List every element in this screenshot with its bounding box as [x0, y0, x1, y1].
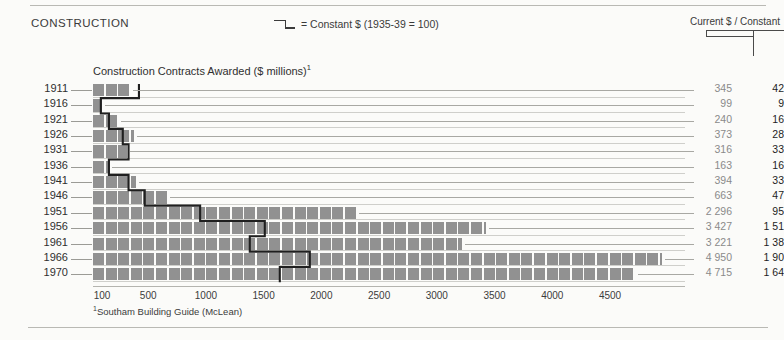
bar-segment: [244, 238, 255, 250]
bar-segment: [345, 253, 356, 265]
bar-segment: [408, 222, 419, 234]
bar-segment: [458, 238, 462, 250]
bar-segment: [106, 253, 117, 265]
bar-segment: [484, 253, 495, 265]
bar-segment: [232, 222, 243, 234]
bar-segment: [106, 130, 117, 142]
constant-dollar-value-1951: 95: [700, 205, 784, 217]
year-label-1931: 1931: [36, 143, 68, 155]
bar-segment: [307, 238, 318, 250]
bar-segment: [93, 115, 104, 127]
x-tick-4000: 4000: [541, 290, 563, 301]
year-leader: [71, 259, 92, 260]
bar-segment: [118, 222, 129, 234]
bar-chart-plot: [93, 84, 668, 286]
bar-segment: [458, 253, 469, 265]
bar-segment: [118, 84, 129, 96]
x-tick-3000: 3000: [426, 290, 448, 301]
bar-segment: [408, 268, 419, 280]
bar-segment: [421, 238, 432, 250]
constant-dollar-value-1966: 1 90: [700, 251, 784, 263]
bar-segment: [244, 207, 255, 219]
bar-segment: [232, 207, 243, 219]
bar-segment: [93, 207, 104, 219]
bar-segment: [471, 268, 482, 280]
constant-dollar-value-1936: 16: [700, 159, 784, 171]
year-label-1946: 1946: [36, 189, 68, 201]
columns-header-label: Current $ / Constant: [690, 16, 780, 27]
bar-segment: [257, 207, 268, 219]
bar-segment: [93, 145, 104, 157]
bar-segment: [93, 99, 102, 111]
bar-segment: [156, 268, 167, 280]
bar-segment: [408, 238, 419, 250]
bar-segment: [282, 253, 293, 265]
bar-1966: [93, 253, 662, 265]
bar-segment: [395, 222, 406, 234]
bar-segment: [106, 115, 117, 127]
bar-segment: [106, 268, 117, 280]
constant-dollar-value-1961: 1 38: [700, 236, 784, 248]
gridline: [93, 204, 685, 205]
bar-segment: [257, 253, 268, 265]
bar-segment: [232, 268, 243, 280]
bar-segment: [307, 222, 318, 234]
bar-segment: [597, 253, 608, 265]
year-leader: [71, 228, 92, 229]
bar-segment: [244, 253, 255, 265]
bar-segment: [257, 268, 268, 280]
bar-segment: [106, 145, 117, 157]
constant-dollar-value-1921: 16: [700, 113, 784, 125]
x-tick-500: 500: [140, 290, 157, 301]
bar-segment: [156, 191, 167, 203]
bar-segment: [194, 268, 205, 280]
bar-segment: [622, 253, 633, 265]
bar-segment: [295, 222, 306, 234]
chart-title: Construction Contracts Awarded ($ millio…: [93, 63, 311, 77]
constant-dollar-value-1911: 42: [700, 82, 784, 94]
bar-segment: [395, 253, 406, 265]
bar-segment: [106, 84, 117, 96]
bar-segment: [521, 268, 532, 280]
year-leader: [71, 213, 92, 214]
bar-segment: [358, 253, 369, 265]
constant-dollar-value-1956: 1 51: [700, 220, 784, 232]
bar-segment: [320, 222, 331, 234]
gridline: [93, 250, 685, 251]
gridline: [93, 265, 685, 266]
gridline: [93, 112, 685, 113]
year-leader: [71, 105, 92, 106]
bar-segment: [143, 191, 154, 203]
bar-segment: [131, 238, 142, 250]
gridline: [93, 173, 685, 174]
x-axis: 10050010001500200025003000350040004500: [0, 290, 784, 304]
bar-segment: [131, 253, 142, 265]
bar-segment: [169, 268, 180, 280]
x-tick-1000: 1000: [195, 290, 217, 301]
year-label-1961: 1961: [36, 236, 68, 248]
bar-segment: [269, 207, 280, 219]
bar-segment: [320, 253, 331, 265]
bar-segment: [383, 222, 394, 234]
x-tick-1500: 1500: [253, 290, 275, 301]
bar-segment: [169, 238, 180, 250]
bar-1956: [93, 222, 486, 234]
year-leader: [71, 274, 92, 275]
bar-segment: [232, 253, 243, 265]
bar-segment: [332, 238, 343, 250]
bar-segment: [320, 268, 331, 280]
bar-segment: [143, 207, 154, 219]
bar-segment: [219, 253, 230, 265]
bar-1926: [93, 130, 134, 142]
bar-segment: [320, 207, 331, 219]
bar-segment: [484, 222, 487, 234]
year-label-1921: 1921: [36, 113, 68, 125]
bar-segment: [559, 253, 570, 265]
bar-segment: [131, 268, 142, 280]
bar-segment: [131, 191, 142, 203]
bar-segment: [572, 253, 583, 265]
year-leader: [71, 197, 92, 198]
bar-segment: [370, 238, 381, 250]
chart-page: CONSTRUCTION = Constant $ (1935-39 = 100…: [0, 0, 784, 340]
bar-segment: [282, 268, 293, 280]
